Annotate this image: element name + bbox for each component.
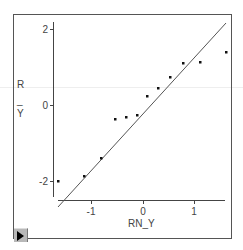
y-tick-label-0: 0: [42, 100, 48, 111]
x-tick-label-neg1: -1: [87, 206, 96, 217]
y-tick-label-2: 2: [42, 24, 48, 35]
data-point: [169, 76, 172, 79]
data-point: [225, 51, 228, 54]
data-points: [57, 51, 228, 183]
data-point: [157, 87, 160, 90]
data-point: [136, 114, 139, 117]
plot-area: 2 0 -2 -1 0 1: [0, 0, 243, 250]
data-point: [57, 180, 60, 183]
data-point: [114, 118, 117, 121]
data-point: [83, 175, 86, 178]
x-tick-label-0: 0: [140, 206, 146, 217]
x-axis-title: RN_Y: [128, 218, 155, 229]
y-tick-label-neg2: -2: [39, 176, 48, 187]
play-button[interactable]: [14, 228, 28, 242]
data-point: [146, 95, 149, 98]
data-point: [182, 62, 185, 65]
reference-line: [58, 23, 226, 207]
data-point: [199, 61, 202, 64]
play-triangle-icon: [17, 231, 25, 241]
x-tick-label-1: 1: [191, 206, 197, 217]
data-point: [100, 157, 103, 160]
data-point: [125, 116, 128, 119]
